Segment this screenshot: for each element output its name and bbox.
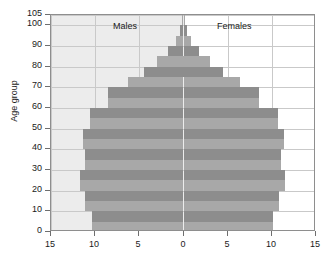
series-label-females: Females	[217, 21, 252, 31]
bar-male	[168, 46, 184, 56]
bar-female	[184, 98, 260, 108]
bar-male	[108, 87, 184, 97]
x-tick-mark	[183, 231, 184, 236]
bar-male	[144, 67, 184, 77]
bar-female	[184, 191, 279, 201]
population-pyramid-chart: Age group Males Females 0102030405060708…	[0, 0, 332, 264]
bar-male	[176, 36, 184, 46]
bar-female	[184, 108, 279, 118]
bar-female	[184, 67, 224, 77]
y-tick-mark	[45, 148, 50, 149]
y-tick-mark	[45, 66, 50, 67]
bar-female	[184, 46, 200, 56]
x-tick-label: 15	[300, 239, 330, 249]
bar-male	[92, 211, 184, 221]
x-tick-mark	[94, 231, 95, 236]
y-tick-label: 40	[2, 142, 42, 152]
gridline-vertical	[51, 15, 52, 230]
y-tick-label: 105	[2, 8, 42, 18]
bar-male	[85, 191, 183, 201]
y-tick-mark	[45, 169, 50, 170]
y-tick-mark	[45, 24, 50, 25]
bar-female	[184, 15, 186, 25]
x-tick-label: 5	[212, 239, 242, 249]
bar-female	[184, 139, 285, 149]
bar-male	[83, 139, 184, 149]
y-tick-label: 30	[2, 163, 42, 173]
y-tick-label: 10	[2, 204, 42, 214]
bar-female	[184, 129, 285, 139]
bar-female	[184, 56, 211, 66]
bar-female	[184, 160, 281, 170]
bar-female	[184, 77, 241, 87]
x-tick-label: 10	[79, 239, 109, 249]
y-tick-label: 100	[2, 18, 42, 28]
bar-female	[184, 36, 192, 46]
bar-male	[108, 98, 184, 108]
bar-female	[184, 87, 260, 97]
y-tick-mark	[45, 190, 50, 191]
bar-male	[92, 222, 184, 231]
bar-male	[83, 129, 184, 139]
bar-female	[184, 170, 286, 180]
bar-female	[184, 211, 273, 221]
bar-male	[80, 170, 183, 180]
y-tick-label: 60	[2, 101, 42, 111]
y-tick-mark	[45, 14, 50, 15]
x-tick-label: 0	[168, 239, 198, 249]
y-tick-label: 0	[2, 225, 42, 235]
bar-male	[157, 56, 184, 66]
plot-area: Males Females	[50, 14, 315, 231]
y-tick-mark	[45, 210, 50, 211]
bar-male	[85, 201, 183, 211]
y-tick-mark	[45, 86, 50, 87]
bar-female	[184, 222, 273, 231]
x-tick-mark	[227, 231, 228, 236]
x-tick-label: 15	[35, 239, 65, 249]
bar-female	[184, 149, 281, 159]
bar-female	[184, 201, 279, 211]
x-tick-mark	[315, 231, 316, 236]
bar-female	[184, 25, 188, 35]
x-tick-label: 10	[256, 239, 286, 249]
x-tick-mark	[138, 231, 139, 236]
y-tick-label: 80	[2, 60, 42, 70]
bar-male	[85, 160, 183, 170]
bar-male	[128, 77, 184, 87]
x-tick-mark	[271, 231, 272, 236]
bar-female	[184, 118, 279, 128]
y-tick-mark	[45, 107, 50, 108]
x-tick-label: 5	[123, 239, 153, 249]
y-tick-mark	[45, 128, 50, 129]
series-label-males: Males	[113, 21, 137, 31]
bar-male	[90, 118, 184, 128]
y-tick-label: 20	[2, 184, 42, 194]
y-tick-label: 50	[2, 122, 42, 132]
y-tick-label: 70	[2, 80, 42, 90]
bar-male	[80, 180, 183, 190]
bar-male	[85, 149, 183, 159]
y-tick-mark	[45, 45, 50, 46]
y-tick-label: 90	[2, 39, 42, 49]
bar-male	[90, 108, 184, 118]
x-tick-mark	[50, 231, 51, 236]
bar-female	[184, 180, 286, 190]
